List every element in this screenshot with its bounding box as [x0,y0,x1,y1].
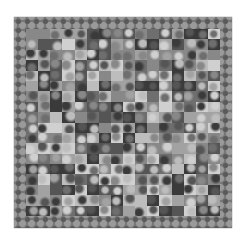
quilt-patch [208,50,220,60]
quilt-patch [75,185,87,195]
quilt-patch [75,195,87,205]
quilt-patch [147,154,159,164]
quilt-patch [62,112,74,122]
quilt-patch [135,133,147,143]
quilt-patch [50,206,62,216]
quilt-patch [111,112,123,122]
quilt-patch [159,164,171,174]
quilt-patch [184,29,196,39]
quilt-patch [208,39,220,49]
quilt-patch [99,154,111,164]
quilt-patch [87,112,99,122]
quilt-patch [50,29,62,39]
quilt-patch [111,154,123,164]
quilt-patch [159,133,171,143]
quilt-patch [159,91,171,101]
quilt-patch [184,112,196,122]
quilt-patch [26,60,38,70]
quilt-patch [172,102,184,112]
quilt-patch [135,50,147,60]
quilt-patch [50,164,62,174]
quilt-patch [208,91,220,101]
quilt-patch [123,185,135,195]
quilt-patch [87,206,99,216]
quilt-patch [147,164,159,174]
quilt-patch [87,185,99,195]
quilt-patch [26,164,38,174]
quilt-patch [62,185,74,195]
quilt-patch [159,154,171,164]
quilt-patch [99,112,111,122]
quilt-patch [75,29,87,39]
quilt-patch [87,164,99,174]
quilt-patch [123,60,135,70]
quilt-patch [135,185,147,195]
quilt-patch [208,143,220,153]
quilt-patch [184,143,196,153]
quilt-patch [123,50,135,60]
quilt-patch [50,154,62,164]
quilt-patch [26,123,38,133]
quilt-patch [208,133,220,143]
quilt-patch [135,71,147,81]
quilt-patch [50,143,62,153]
quilt-patch [26,29,38,39]
quilt-patch [111,71,123,81]
quilt-patch [75,91,87,101]
quilt-patch [38,206,50,216]
quilt-patch [184,154,196,164]
quilt-patch [208,112,220,122]
quilt-patch [50,71,62,81]
quilt-patch [159,60,171,70]
quilt-patch [172,123,184,133]
quilt-patch [123,164,135,174]
quilt-patch [87,71,99,81]
quilt-patch [123,154,135,164]
quilt-patch [208,206,220,216]
quilt-patch [135,81,147,91]
quilt-patch [208,123,220,133]
quilt-patch [172,143,184,153]
quilt-patch [111,50,123,60]
quilt-patch [99,143,111,153]
quilt-patch [123,39,135,49]
quilt-patch [99,164,111,174]
quilt-patch [26,102,38,112]
quilt-patch [87,81,99,91]
quilt-patch [111,185,123,195]
quilt-patch [135,164,147,174]
quilt-patch [99,39,111,49]
quilt-patch [135,154,147,164]
quilt-patch [87,195,99,205]
quilt-patch [62,39,74,49]
quilt-patch [111,133,123,143]
quilt-patch [196,123,208,133]
quilt-patch [135,123,147,133]
quilt-patch [38,29,50,39]
quilt-patch [62,206,74,216]
quilt-patch [123,102,135,112]
quilt-patch [62,133,74,143]
quilt-patch [159,71,171,81]
quilt-patch [75,39,87,49]
quilt-patch [99,60,111,70]
quilt-patch [111,91,123,101]
quilt-patch [38,60,50,70]
quilt-patch [50,60,62,70]
quilt-patch [159,195,171,205]
quilt-patch [38,174,50,184]
quilt-patch [75,206,87,216]
quilt-patch [123,206,135,216]
quilt-patch [38,164,50,174]
quilt-patch [196,91,208,101]
quilt-patch [26,185,38,195]
quilt-patch [99,102,111,112]
quilt-patch [62,81,74,91]
quilt-patch [75,154,87,164]
quilt-patch [172,154,184,164]
quilt-patch [135,206,147,216]
quilt-patch [50,91,62,101]
quilt-patch [38,133,50,143]
quilt-patch [38,185,50,195]
quilt-patch [62,29,74,39]
